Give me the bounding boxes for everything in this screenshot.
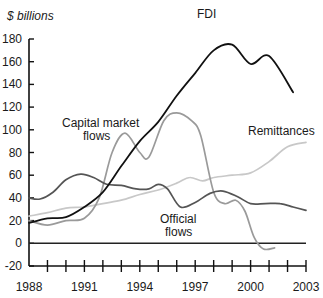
- y-tick-label: 140: [2, 77, 22, 91]
- x-tick-label: 2000: [237, 280, 264, 294]
- y-tick-label: 40: [9, 191, 23, 205]
- y-tick-label: 80: [9, 146, 23, 160]
- x-tick-label: 1994: [126, 280, 153, 294]
- x-tick-label: 1988: [16, 280, 43, 294]
- y-axis: 180160140120100806040200-20: [2, 32, 34, 273]
- x-tick-label: 1991: [71, 280, 98, 294]
- line-chart: 180160140120100806040200-20 198819911994…: [0, 0, 323, 298]
- annotation-capital-market-line1: Capital market: [62, 116, 140, 130]
- annotation-official-line2: flows: [165, 225, 192, 239]
- x-tick-label: 2003: [293, 280, 320, 294]
- series-line-remittances: [29, 142, 306, 216]
- y-tick-label: 100: [2, 123, 22, 137]
- y-tick-label: 160: [2, 55, 22, 69]
- annotation-capital-market-line2: flows: [83, 129, 110, 143]
- annotation-official-line1: Official: [160, 212, 196, 226]
- series-line-capital-market-flows: [29, 113, 275, 250]
- y-tick-label: 20: [9, 214, 23, 228]
- annotation-remittances: Remittances: [248, 124, 315, 138]
- x-axis: 198819911994199720002003: [16, 260, 320, 294]
- x-tick-label: 1997: [182, 280, 209, 294]
- y-tick-label: 180: [2, 32, 22, 46]
- annotation-fdi: FDI: [197, 7, 216, 21]
- y-tick-label: 0: [15, 236, 22, 250]
- y-tick-label: 120: [2, 100, 22, 114]
- series-line-official-flows: [29, 174, 306, 210]
- y-tick-label: -20: [5, 259, 23, 273]
- y-tick-label: 60: [9, 168, 23, 182]
